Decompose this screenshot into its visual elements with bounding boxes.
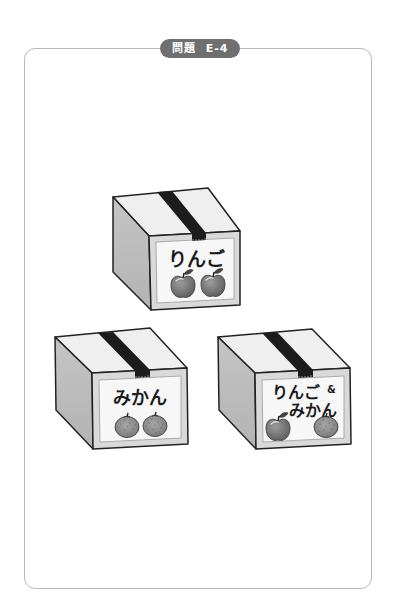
orange-box: みかん xyxy=(55,328,188,449)
apple-box: りんご xyxy=(113,188,240,310)
mixed-box-label-amp: & xyxy=(327,384,336,395)
apple-box-label: りんご xyxy=(168,248,225,270)
mixed-box-label-line1: りんご xyxy=(272,383,320,402)
boxes-illustration: りんご みかん りんご & みかん xyxy=(0,0,395,613)
orange-box-label: みかん xyxy=(113,387,167,408)
mixed-box: りんご & みかん xyxy=(218,329,351,449)
